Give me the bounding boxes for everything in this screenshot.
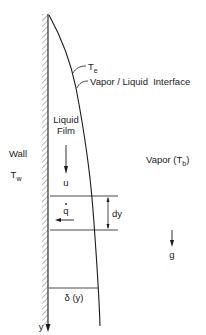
dy-label: dy bbox=[112, 208, 122, 219]
interface-temp-label: Te bbox=[88, 61, 98, 74]
heat-flux-dot bbox=[65, 203, 67, 205]
heat-flux-label: q bbox=[63, 205, 68, 216]
gravity-label: g bbox=[169, 249, 174, 260]
wall-hatch bbox=[42, 14, 48, 326]
vapor-label: Vapor (Tb) bbox=[146, 154, 189, 167]
film-thickness-label: δ (y) bbox=[64, 292, 83, 303]
liquid-film-label-1: Liquid bbox=[53, 114, 78, 125]
dy-arrow-down-icon bbox=[107, 224, 110, 229]
interface-label: Vapor / Liquid Interface bbox=[90, 76, 190, 87]
interface-leader bbox=[77, 81, 88, 88]
te-leader bbox=[73, 66, 86, 73]
y-axis-label: y bbox=[39, 321, 44, 332]
y-axis-arrow-icon bbox=[46, 324, 51, 332]
film-condensation-diagram: Te Vapor / Liquid Interface Liquid Film … bbox=[0, 0, 206, 335]
gravity-arrowhead-icon bbox=[170, 240, 174, 247]
heat-flux-arrowhead-icon bbox=[55, 218, 61, 222]
wall-temp-label: Tw bbox=[11, 169, 23, 182]
velocity-arrowhead-icon bbox=[64, 166, 68, 174]
liquid-film-label-2: Film bbox=[57, 125, 75, 136]
dy-arrow-up-icon bbox=[107, 197, 110, 202]
wall-label: Wall bbox=[9, 148, 27, 159]
velocity-label: u bbox=[63, 177, 68, 188]
